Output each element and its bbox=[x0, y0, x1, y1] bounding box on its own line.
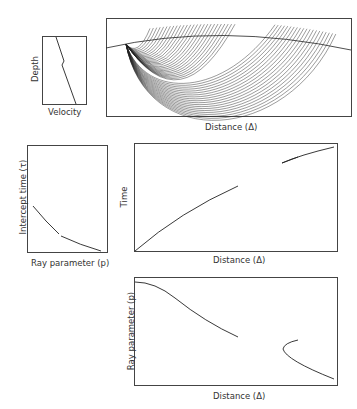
p-delta-distance-label: Distance (Δ) bbox=[213, 391, 265, 401]
p-delta-curve bbox=[0, 0, 357, 409]
p-axis-label: Ray parameter (p) bbox=[126, 292, 136, 370]
